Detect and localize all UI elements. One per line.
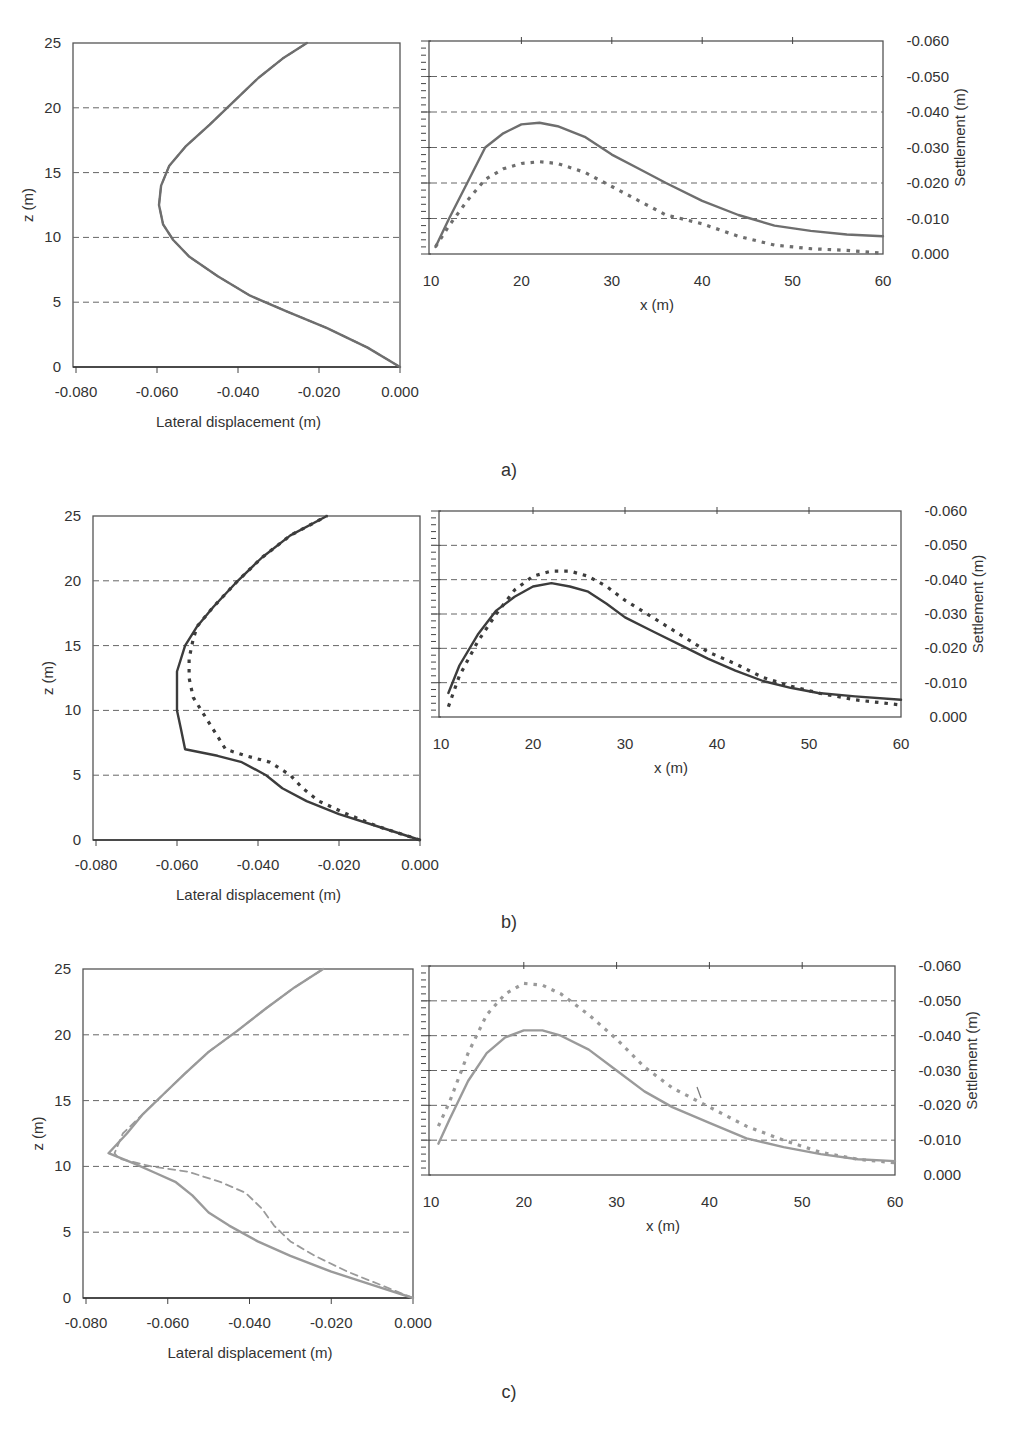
x-tick-label: 10 bbox=[423, 1193, 440, 1210]
y-tick-label: 10 bbox=[44, 228, 61, 245]
y-tick-label: -0.010 bbox=[906, 210, 949, 227]
figure: -0.080-0.060-0.040-0.0200.0000510152025L… bbox=[0, 0, 1019, 1432]
y-axis: 0510152025 bbox=[64, 507, 81, 848]
series-solid bbox=[109, 969, 414, 1298]
x-axis-title: x (m) bbox=[646, 1217, 680, 1234]
y-tick-label: -0.050 bbox=[924, 536, 967, 553]
y-tick-label: 5 bbox=[63, 1223, 71, 1240]
x-axis-title: Lateral displacement (m) bbox=[176, 886, 341, 903]
chart-b-settlement: 102030405060x (m)0.000-0.010-0.020-0.030… bbox=[431, 502, 986, 776]
y-tick-label: 5 bbox=[73, 766, 81, 783]
y-tick-label: 5 bbox=[53, 293, 61, 310]
plot-frame bbox=[83, 969, 413, 1298]
y-tick-label: 15 bbox=[54, 1092, 71, 1109]
y-tick-label: 25 bbox=[44, 34, 61, 51]
y-axis-title: Settlement (m) bbox=[969, 555, 986, 653]
x-axis: -0.080-0.060-0.040-0.0200.000 bbox=[65, 1298, 432, 1331]
y-tick-label: 25 bbox=[64, 507, 81, 524]
y-axis-right: 0.000-0.010-0.020-0.030-0.040-0.050-0.06… bbox=[918, 957, 961, 1183]
y-tick-label: -0.030 bbox=[906, 139, 949, 156]
x-tick-label: 40 bbox=[701, 1193, 718, 1210]
y-tick-label: -0.040 bbox=[924, 571, 967, 588]
x-axis: 102030405060 bbox=[433, 735, 910, 752]
x-tick-label: 40 bbox=[709, 735, 726, 752]
x-tick-label: 10 bbox=[433, 735, 450, 752]
y-tick-label: 0 bbox=[73, 831, 81, 848]
x-tick-label: -0.060 bbox=[136, 383, 179, 400]
y-tick-label: 20 bbox=[54, 1026, 71, 1043]
x-axis: 102030405060 bbox=[423, 272, 892, 289]
x-tick-label: 10 bbox=[423, 272, 440, 289]
x-tick-label: -0.080 bbox=[55, 383, 98, 400]
y-axis-title: z (m) bbox=[19, 188, 36, 222]
chart-c-lateral: -0.080-0.060-0.040-0.0200.0000510152025L… bbox=[29, 960, 432, 1361]
x-tick-label: 60 bbox=[887, 1193, 904, 1210]
x-axis-title: x (m) bbox=[640, 296, 674, 313]
panel-caption: c) bbox=[502, 1382, 517, 1402]
y-tick-label: -0.040 bbox=[906, 103, 949, 120]
y-tick-label: -0.060 bbox=[918, 957, 961, 974]
y-axis-title: Settlement (m) bbox=[951, 88, 968, 186]
x-tick-label: -0.020 bbox=[298, 383, 341, 400]
y-tick-label: 0 bbox=[63, 1289, 71, 1306]
x-axis: -0.080-0.060-0.040-0.0200.000 bbox=[75, 840, 439, 873]
series-dashed bbox=[436, 162, 884, 254]
x-tick-label: 30 bbox=[617, 735, 634, 752]
x-axis-title: Lateral displacement (m) bbox=[167, 1344, 332, 1361]
x-tick-label: -0.040 bbox=[217, 383, 260, 400]
y-tick-label: 0.000 bbox=[929, 708, 967, 725]
x-tick-label: -0.060 bbox=[156, 856, 199, 873]
plot-frame bbox=[93, 516, 420, 840]
x-tick-label: 30 bbox=[603, 272, 620, 289]
series-solid bbox=[438, 1030, 895, 1161]
x-tick-label: 0.000 bbox=[394, 1314, 432, 1331]
y-tick-label: 0 bbox=[53, 358, 61, 375]
y-axis-title: Settlement (m) bbox=[963, 1011, 980, 1109]
y-tick-label: 15 bbox=[44, 164, 61, 181]
y-tick-label: -0.020 bbox=[924, 639, 967, 656]
y-tick-label: 20 bbox=[44, 99, 61, 116]
y-tick-label: -0.050 bbox=[906, 68, 949, 85]
series-solid bbox=[159, 43, 400, 367]
y-tick-label: 20 bbox=[64, 572, 81, 589]
x-tick-label: 20 bbox=[515, 1193, 532, 1210]
y-tick-label: -0.050 bbox=[918, 992, 961, 1009]
series-solid bbox=[436, 123, 884, 247]
y-axis: 0510152025 bbox=[54, 960, 71, 1306]
x-tick-label: -0.040 bbox=[237, 856, 280, 873]
x-tick-label: -0.020 bbox=[310, 1314, 353, 1331]
x-tick-label: 50 bbox=[794, 1193, 811, 1210]
series-solid bbox=[177, 516, 420, 840]
x-tick-label: 0.000 bbox=[401, 856, 439, 873]
y-axis-title: z (m) bbox=[29, 1116, 46, 1150]
y-tick-label: 0.000 bbox=[923, 1166, 961, 1183]
y-tick-label: -0.060 bbox=[906, 32, 949, 49]
plot-frame bbox=[73, 43, 400, 367]
x-tick-label: 0.000 bbox=[381, 383, 419, 400]
x-tick-label: 60 bbox=[875, 272, 892, 289]
panel-caption: b) bbox=[501, 912, 517, 932]
y-tick-label: -0.020 bbox=[918, 1096, 961, 1113]
y-tick-label: 15 bbox=[64, 637, 81, 654]
y-tick-label: -0.040 bbox=[918, 1027, 961, 1044]
x-tick-label: -0.080 bbox=[75, 856, 118, 873]
x-tick-label: 20 bbox=[513, 272, 530, 289]
series-dashed bbox=[159, 43, 400, 367]
x-tick-label: 60 bbox=[893, 735, 910, 752]
x-tick-label: 50 bbox=[801, 735, 818, 752]
chart-a-settlement: 102030405060x (m)0.000-0.010-0.020-0.030… bbox=[421, 32, 968, 313]
stray-mark bbox=[697, 1087, 701, 1098]
y-axis-right: 0.000-0.010-0.020-0.030-0.040-0.050-0.06… bbox=[906, 32, 949, 262]
y-tick-label: -0.010 bbox=[918, 1131, 961, 1148]
chart-a-lateral: -0.080-0.060-0.040-0.0200.0000510152025L… bbox=[19, 34, 419, 430]
y-axis: 0510152025 bbox=[44, 34, 61, 375]
series-dashed bbox=[438, 983, 895, 1162]
panel-caption: a) bbox=[501, 460, 517, 480]
x-axis-title: Lateral displacement (m) bbox=[156, 413, 321, 430]
x-tick-label: 50 bbox=[784, 272, 801, 289]
y-axis-title: z (m) bbox=[39, 661, 56, 695]
series-dashed bbox=[189, 516, 420, 840]
y-tick-label: -0.030 bbox=[918, 1062, 961, 1079]
y-tick-label: -0.010 bbox=[924, 674, 967, 691]
series-dashed bbox=[448, 571, 901, 707]
